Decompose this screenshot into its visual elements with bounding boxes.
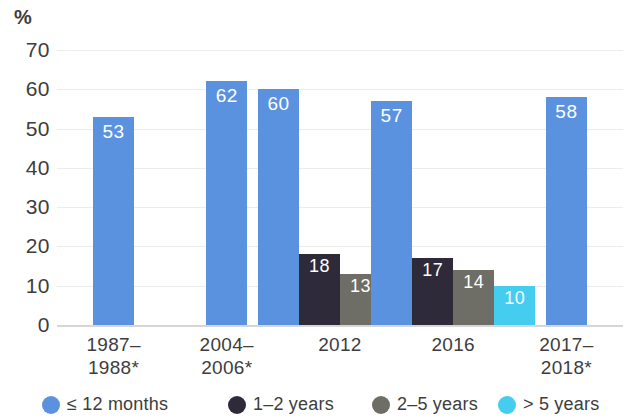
legend-swatch-circle-icon [498, 396, 516, 414]
x-axis-label-g2017: 2017–2018* [510, 333, 623, 379]
x-axis-label-line1: 2016 [397, 333, 510, 356]
legend-swatch-circle-icon [228, 396, 246, 414]
bar-g1987-1[interactable]: 53 [93, 117, 134, 325]
y-axis-tick-60: 60 [0, 77, 50, 101]
y-axis-tick-0: 0 [0, 313, 50, 337]
x-axis-label-line1: 1987– [57, 333, 170, 356]
x-axis-label-line1: 2017– [510, 333, 623, 356]
bar-value-label: 57 [371, 105, 412, 127]
legend-item-2[interactable]: 1–2 years [228, 394, 334, 415]
bar-value-label: 62 [206, 85, 247, 107]
bar-g2004-1[interactable]: 62 [206, 81, 247, 325]
x-axis-label-line1: 2012 [283, 333, 396, 356]
gridline-20 [57, 246, 623, 247]
x-axis-label-line2: 2006* [170, 356, 283, 379]
legend-item-4[interactable]: > 5 years [498, 394, 599, 415]
bar-value-label: 53 [93, 121, 134, 143]
x-axis-label-line2: 2018* [510, 356, 623, 379]
legend-item-3[interactable]: 2–5 years [372, 394, 478, 415]
y-axis-tick-20: 20 [0, 234, 50, 258]
legend-item-label: ≤ 12 months [67, 394, 168, 415]
bar-g2016-2[interactable]: 17 [412, 258, 453, 325]
x-axis-label-g1987: 1987–1988* [57, 333, 170, 379]
y-axis-tick-30: 30 [0, 195, 50, 219]
y-axis-unit-label: % [14, 6, 32, 29]
bar-value-label: 58 [546, 101, 587, 123]
legend-swatch-circle-icon [372, 396, 390, 414]
x-axis-label-g2004: 2004–2006* [170, 333, 283, 379]
legend-item-1[interactable]: ≤ 12 months [42, 394, 168, 415]
y-axis-tick-10: 10 [0, 274, 50, 298]
y-axis-tick-50: 50 [0, 117, 50, 141]
legend-item-label: 2–5 years [397, 394, 478, 415]
bar-g2016-1[interactable]: 57 [371, 101, 412, 325]
legend-item-label: 1–2 years [253, 394, 334, 415]
bar-g2017-1[interactable]: 58 [546, 97, 587, 325]
gridline-40 [57, 168, 623, 169]
bar-value-label: 14 [453, 272, 494, 293]
bar-value-label: 17 [412, 260, 453, 281]
x-axis-label-g2012: 2012 [283, 333, 396, 356]
bar-g2016-3[interactable]: 14 [453, 270, 494, 325]
chart-legend: ≤ 12 months1–2 years2–5 years> 5 years [0, 392, 627, 418]
bar-chart: % 706050403020100 536260181395717141058 … [0, 0, 627, 419]
bar-g2016-4[interactable]: 10 [494, 286, 535, 325]
y-axis-tick-70: 70 [0, 38, 50, 62]
plot-area: 536260181395717141058 [57, 50, 623, 325]
gridline-60 [57, 89, 623, 90]
bar-value-label: 60 [258, 93, 299, 115]
x-axis-label-g2016: 2016 [397, 333, 510, 356]
axis-baseline [57, 325, 623, 327]
bar-value-label: 10 [494, 288, 535, 309]
gridline-50 [57, 129, 623, 130]
y-axis-tick-40: 40 [0, 156, 50, 180]
legend-swatch-circle-icon [42, 396, 60, 414]
gridline-70 [57, 50, 623, 51]
x-axis-label-line1: 2004– [170, 333, 283, 356]
bar-value-label: 18 [299, 256, 340, 277]
gridline-30 [57, 207, 623, 208]
bar-g2012-1[interactable]: 60 [258, 89, 299, 325]
legend-item-label: > 5 years [523, 394, 599, 415]
bar-g2012-2[interactable]: 18 [299, 254, 340, 325]
x-axis-label-line2: 1988* [57, 356, 170, 379]
